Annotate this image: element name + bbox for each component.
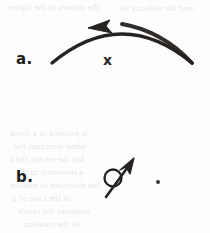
small-dot	[156, 180, 160, 184]
part-label-b: b.	[16, 168, 33, 186]
scanned-figure: the arrows in the figure and the velocit…	[0, 0, 210, 233]
vector-arrowhead	[120, 158, 134, 174]
vector-arrow-shaft	[106, 164, 130, 197]
part-b-vector-symbol	[0, 0, 210, 233]
